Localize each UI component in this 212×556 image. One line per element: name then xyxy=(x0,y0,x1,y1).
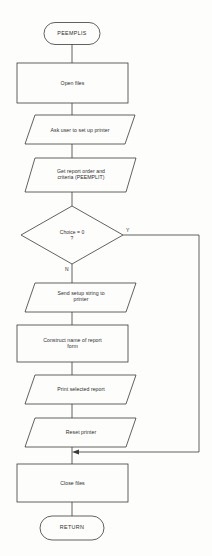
shape-send-setup-io xyxy=(25,283,136,312)
flowchart-svg xyxy=(0,0,212,556)
shape-return-terminator xyxy=(40,516,104,540)
shape-choice-decision xyxy=(21,206,123,264)
shape-get-report-io xyxy=(25,158,136,192)
shape-construct-process xyxy=(17,325,128,362)
shape-print-report-io xyxy=(25,375,136,404)
flowchart-canvas: PEEMPLIS Open files Ask user to set up p… xyxy=(0,0,212,556)
shape-reset-printer-io xyxy=(25,418,136,447)
shape-close-files-process xyxy=(17,464,128,502)
shape-start-terminator xyxy=(44,23,100,45)
shape-open-files-process xyxy=(17,63,128,103)
connector-yes-branch xyxy=(79,235,199,452)
shape-ask-user-io xyxy=(25,115,135,144)
arrowhead-merge-into-trunk xyxy=(72,449,79,454)
